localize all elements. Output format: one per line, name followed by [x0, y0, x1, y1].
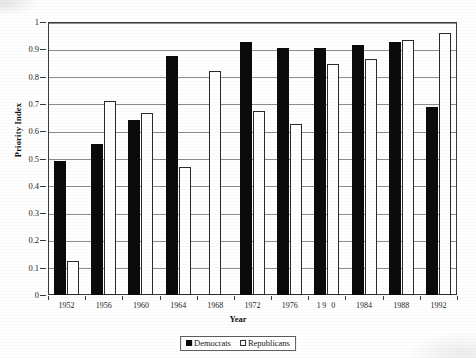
- bar-democrats-1980: [314, 48, 326, 295]
- bar-democrats-1992: [426, 107, 438, 295]
- x-axis-tick-mark: [345, 296, 346, 300]
- x-axis-tick-mark: [271, 296, 272, 300]
- x-axis-tick-mark: [197, 296, 198, 300]
- y-axis-tick-label: 0.5: [28, 155, 39, 163]
- bar-group: [160, 22, 197, 295]
- bar-republicans-1992: [439, 33, 451, 295]
- x-axis-tick-mark: [457, 296, 458, 300]
- x-axis: 195219561960196419681972197619 019841988…: [48, 296, 457, 316]
- bar-republicans-1972: [253, 111, 265, 295]
- legend-label-republicans: Republicans: [248, 338, 290, 348]
- bar-group: [345, 22, 382, 295]
- bar-group: [420, 22, 457, 295]
- bar-democrats-1988: [389, 42, 401, 295]
- y-axis-tick-label: 0.8: [28, 73, 39, 81]
- y-axis: Priority Index 00.10.20.30.40.50.60.70.8…: [0, 0, 46, 296]
- bar-group: [308, 22, 345, 295]
- x-axis-tick-mark: [48, 296, 49, 300]
- bar-group: [197, 22, 234, 295]
- y-axis-tick-label: 0: [35, 291, 39, 299]
- legend-item-republicans: Republicans: [240, 338, 290, 348]
- legend-item-democrats: Democrats: [186, 338, 231, 348]
- bar-group: [234, 22, 271, 295]
- bar-group: [271, 22, 308, 295]
- bar-democrats-1964: [166, 56, 178, 295]
- bar-republicans-1968: [209, 71, 221, 295]
- bar-series-layer: [48, 22, 457, 295]
- y-axis-tick-mark: [40, 22, 46, 23]
- y-axis-tick-mark: [40, 268, 46, 269]
- legend-label-democrats: Democrats: [194, 338, 231, 348]
- y-axis-tick-mark: [40, 240, 46, 241]
- y-axis-tick-label: 0.6: [28, 127, 39, 135]
- bar-republicans-1964: [179, 167, 191, 295]
- y-axis-tick-mark: [40, 213, 46, 214]
- bar-group: [48, 22, 85, 295]
- bar-democrats-1976: [277, 48, 289, 295]
- bar-group: [122, 22, 159, 295]
- chart-legend: Democrats Republicans: [180, 336, 296, 351]
- x-axis-tick-mark: [160, 296, 161, 300]
- y-axis-tick-mark: [40, 104, 46, 105]
- legend-swatch-democrats-icon: [186, 340, 192, 346]
- x-axis-tick-mark: [308, 296, 309, 300]
- bar-republicans-1952: [67, 261, 79, 295]
- bar-republicans-1976: [290, 124, 302, 295]
- bar-republicans-1960: [141, 113, 153, 295]
- chart-title: [0, 0, 476, 7]
- y-axis-tick-label: 0.3: [28, 209, 39, 217]
- x-axis-tick-mark: [122, 296, 123, 300]
- y-axis-title: Priority Index: [13, 90, 23, 170]
- y-axis-tick-mark: [40, 186, 46, 187]
- bar-republicans-1956: [104, 101, 116, 295]
- bar-democrats-1956: [91, 144, 103, 296]
- x-axis-tick-mark: [420, 296, 421, 300]
- bar-democrats-1960: [128, 120, 140, 295]
- bar-republicans-1984: [365, 59, 377, 295]
- x-axis-tick-mark: [383, 296, 384, 300]
- bar-republicans-1988: [402, 40, 414, 295]
- bar-democrats-1952: [54, 161, 66, 295]
- x-axis-tick-label: 1992: [416, 301, 460, 310]
- bar-democrats-1984: [352, 45, 364, 295]
- y-axis-tick-label: 0.7: [28, 100, 39, 108]
- bar-democrats-1972: [240, 42, 252, 295]
- y-axis-tick-label: 0.4: [28, 182, 39, 190]
- bar-republicans-1980: [327, 64, 339, 295]
- y-axis-tick-mark: [40, 159, 46, 160]
- x-axis-tick-mark: [85, 296, 86, 300]
- legend-swatch-republicans-icon: [240, 340, 246, 346]
- x-axis-title: Year: [0, 314, 476, 324]
- bar-group: [383, 22, 420, 295]
- y-axis-tick-label: 0.2: [28, 236, 39, 244]
- y-axis-tick-mark: [40, 77, 46, 78]
- y-axis-tick-mark: [40, 295, 46, 296]
- y-axis-tick-label: 0.1: [28, 264, 39, 272]
- scan-smudge-bottom-right: [406, 332, 476, 358]
- y-axis-tick-mark: [40, 49, 46, 50]
- y-axis-tick-label: 1: [35, 18, 39, 26]
- bar-group: [85, 22, 122, 295]
- y-axis-tick-mark: [40, 131, 46, 132]
- x-axis-tick-mark: [234, 296, 235, 300]
- chart-canvas: Priority Index 00.10.20.30.40.50.60.70.8…: [0, 0, 476, 358]
- y-axis-tick-label: 0.9: [28, 45, 39, 53]
